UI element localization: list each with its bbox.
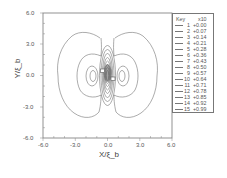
legend-line-swatch xyxy=(175,31,183,32)
x-tick-label: 0.0 xyxy=(104,142,112,148)
x-tick-label: 6.0 xyxy=(167,142,175,148)
legend-line-swatch xyxy=(175,79,183,80)
legend-line-swatch xyxy=(175,67,183,68)
y-axis-ticks xyxy=(40,13,45,138)
legend-line-swatch xyxy=(175,97,183,98)
x-tick-label: 3.0 xyxy=(136,142,144,148)
legend-line-swatch xyxy=(175,103,183,104)
x-axis-ticks xyxy=(43,136,172,141)
legend-line-swatch xyxy=(175,43,183,44)
legend-line-swatch xyxy=(175,109,183,110)
x-tick-label: -3.0 xyxy=(70,142,80,148)
legend-line-swatch xyxy=(175,49,183,50)
legend-entry: 15+0.99 xyxy=(175,106,214,112)
y-tick-label: -3.0 xyxy=(23,104,33,110)
legend-line-swatch xyxy=(175,37,183,38)
legend-line-swatch xyxy=(175,61,183,62)
legend-line-swatch xyxy=(175,85,183,86)
y-tick-label: -6.0 xyxy=(23,135,33,141)
legend-line-swatch xyxy=(175,25,183,26)
y-tick-label: 0.0 xyxy=(26,72,34,78)
marker-square xyxy=(101,69,105,73)
legend-line-swatch xyxy=(175,55,183,56)
y-axis-label: Y/ξ_b xyxy=(13,58,22,78)
contour-core xyxy=(104,64,112,82)
y-tick-label: 3.0 xyxy=(26,41,34,47)
legend-line-swatch xyxy=(175,91,183,92)
legend-level-value: +0.99 xyxy=(193,106,206,112)
y-tick-label: 6.0 xyxy=(26,10,34,16)
x-tick-label: -6.0 xyxy=(38,142,48,148)
marker-square xyxy=(111,77,115,81)
legend-line-swatch xyxy=(175,73,183,74)
legend-key: Key x10 1+0.00 2+0.07 3+0.14 4+0.21 5+0.… xyxy=(172,13,214,113)
legend-level-number: 15 xyxy=(183,106,190,112)
x-axis-label: X/ξ_b xyxy=(99,150,119,159)
